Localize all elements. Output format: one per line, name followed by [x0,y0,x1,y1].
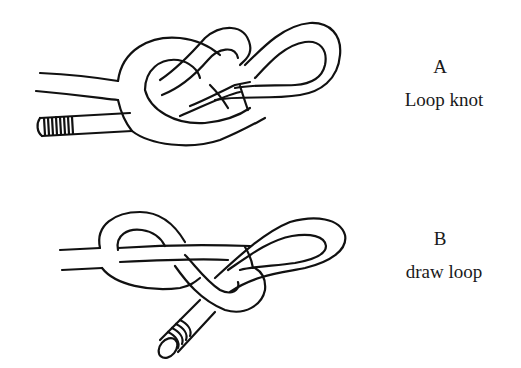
figure-b-caption: draw loop [384,261,504,283]
draw-loop-drawing [60,212,345,362]
figure-b-letter: B [425,228,455,250]
figure-a-letter: A [425,56,455,78]
loop-knot-drawing [36,23,340,145]
figure-a-caption: Loop knot [384,89,504,111]
